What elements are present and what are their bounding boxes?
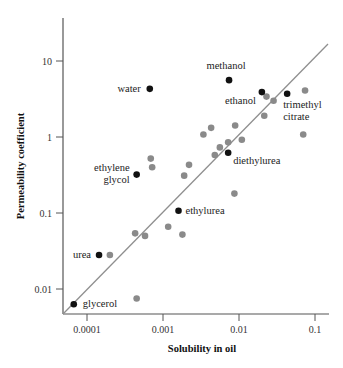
data-point-trimethyl-citrate <box>284 91 291 98</box>
data-point-methanol <box>226 77 233 84</box>
y-tick-label: 1 <box>47 132 52 143</box>
data-point <box>133 295 140 302</box>
point-label: trimethyl <box>283 99 322 110</box>
point-labels: watermethanolethanoltrimethylcitrateethy… <box>73 60 322 309</box>
data-point-water <box>146 86 153 93</box>
data-point <box>200 131 207 138</box>
y-tick-label: 0.01 <box>35 284 53 295</box>
x-axis-title: Solubility in oil <box>168 343 236 354</box>
y-tick-label: 10 <box>42 56 52 67</box>
data-points <box>70 77 308 308</box>
data-point <box>211 152 218 159</box>
y-axis-title: Permeability coefficient <box>15 112 26 219</box>
data-point <box>132 230 139 237</box>
point-label: glycol <box>103 174 129 185</box>
data-point <box>225 139 232 146</box>
data-point <box>142 233 149 240</box>
data-point <box>270 97 277 104</box>
point-label: ethylurea <box>186 205 225 216</box>
data-point <box>231 190 238 197</box>
data-point <box>186 162 193 169</box>
point-label: methanol <box>207 60 246 71</box>
data-point <box>302 87 309 94</box>
x-tick-label: 0.0001 <box>73 324 101 335</box>
x-tick-label: 0.001 <box>152 324 175 335</box>
data-point <box>147 155 154 162</box>
point-label: water <box>117 83 141 94</box>
y-tick-label: 0.1 <box>40 208 53 219</box>
y-axis: 0.010.1110 <box>35 18 64 314</box>
x-tick-label: 0.01 <box>230 324 248 335</box>
point-label: ethylene <box>94 162 130 173</box>
x-axis: 0.00010.0010.010.1 <box>63 314 329 335</box>
data-point-urea <box>96 252 103 259</box>
point-label: ethanol <box>225 95 256 106</box>
data-point-glycerol <box>70 301 77 308</box>
data-point <box>149 164 156 171</box>
data-point-ethylene-glycol <box>133 171 140 178</box>
x-tick-label: 0.1 <box>309 324 322 335</box>
point-label: glycerol <box>83 298 117 309</box>
scatter-chart: 0.010.1110 0.00010.0010.010.1 watermetha… <box>0 0 343 368</box>
data-point <box>181 172 188 179</box>
data-point <box>165 223 172 230</box>
data-point-ethylurea <box>175 207 182 214</box>
data-point <box>107 252 114 259</box>
data-point <box>232 122 239 129</box>
point-label: urea <box>73 249 91 260</box>
point-label: diethylurea <box>233 155 281 166</box>
data-point <box>208 125 215 132</box>
data-point <box>261 113 268 120</box>
data-point <box>217 144 224 151</box>
data-point <box>300 131 307 138</box>
data-point-ethanol <box>259 89 266 96</box>
data-point <box>179 231 186 238</box>
data-point <box>239 136 246 143</box>
data-point-diethylurea <box>225 149 232 156</box>
point-label: citrate <box>283 111 310 122</box>
